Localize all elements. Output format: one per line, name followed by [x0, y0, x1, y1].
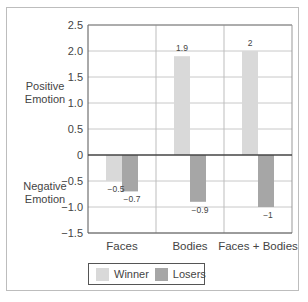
legend-label-winner: Winner [114, 268, 149, 280]
data-label: −0.7 [124, 194, 141, 204]
legend: Winner Losers [88, 263, 205, 285]
legend-swatch-losers [155, 268, 168, 281]
category-label: Faces + Bodies [218, 240, 298, 252]
bar-losers [258, 155, 274, 207]
y-tick-label: 0.5 [68, 123, 83, 135]
bar-winner [174, 56, 190, 155]
legend-item-winner: Winner [96, 268, 149, 281]
category-label: Faces [106, 240, 138, 252]
positive-label-line1: Positive [14, 80, 76, 93]
bar-chart: 2.52.01.51.00.50−0.5−1.0−1.5 FacesBodies… [0, 0, 308, 302]
negative-label-line2: Emotion [14, 193, 76, 206]
legend-label-losers: Losers [173, 268, 206, 280]
negative-emotion-label: Negative Emotion [14, 180, 76, 206]
y-tick-label: 2.5 [68, 19, 83, 31]
positive-label-line2: Emotion [14, 93, 76, 106]
data-label: −0.9 [192, 205, 209, 215]
category-label: Bodies [172, 240, 207, 252]
bar-winner [106, 155, 122, 181]
negative-label-line1: Negative [14, 180, 76, 193]
bar-losers [122, 155, 138, 191]
data-label: 1.9 [176, 43, 188, 53]
bar-losers [190, 155, 206, 202]
legend-swatch-winner [96, 268, 109, 281]
y-tick-label: 2.0 [68, 45, 83, 57]
data-label: −0.5 [108, 184, 125, 194]
data-label: 2 [248, 38, 253, 48]
legend-item-losers: Losers [155, 268, 206, 281]
data-label: −1 [263, 210, 273, 220]
category-labels: FacesBodiesFaces + Bodies [106, 240, 298, 252]
positive-emotion-label: Positive Emotion [14, 80, 76, 106]
y-tick-label: 0 [77, 149, 83, 161]
bar-winner [242, 51, 258, 155]
y-tick-label: −1.5 [61, 227, 83, 239]
y-tick-labels: 2.52.01.51.00.50−0.5−1.0−1.5 [61, 19, 83, 239]
